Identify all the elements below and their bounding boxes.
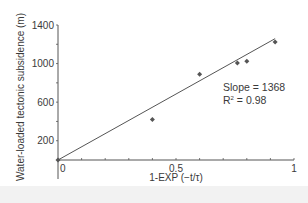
y-tick-label: 1000 <box>32 58 55 69</box>
x-tick-label: 1 <box>291 163 297 174</box>
data-point <box>235 61 240 66</box>
slope-annotation: Slope = 1368 <box>223 81 285 93</box>
r2-annotation: R2 = 0.98 <box>223 94 267 106</box>
data-point <box>197 72 202 77</box>
y-axis-title: Water-loaded tectonic subsidence (m) <box>15 13 26 181</box>
x-tick-label: 0 <box>60 163 66 174</box>
data-point <box>56 158 61 163</box>
y-tick-label: 200 <box>37 135 54 146</box>
x-axis-title: 1-EXP (−t/τ) <box>149 172 203 183</box>
data-point <box>150 117 155 122</box>
y-tick-label: 1400 <box>32 20 55 31</box>
data-point <box>244 59 249 64</box>
scatter-chart: 2006001000140000.51 1-EXP (−t/τ) Water-l… <box>0 0 308 203</box>
y-tick-label: 600 <box>37 97 54 108</box>
